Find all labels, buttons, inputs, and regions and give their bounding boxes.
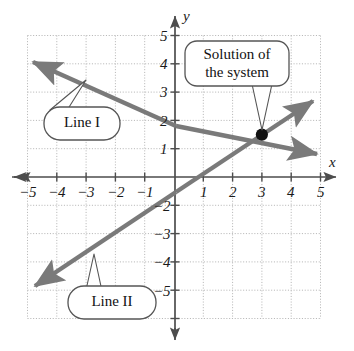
x-tick-label: 3 bbox=[258, 185, 266, 200]
x-tick-label: 5 bbox=[317, 185, 325, 200]
x-tick-label: 4 bbox=[287, 185, 295, 200]
x-tick-label: −5 bbox=[19, 185, 37, 200]
x-tick-label: 1 bbox=[200, 185, 208, 200]
x-tick-label: −1 bbox=[136, 185, 154, 200]
y-tick-label: −3 bbox=[153, 227, 171, 242]
y-tick-label: 1 bbox=[160, 142, 168, 157]
coordinate-plane bbox=[0, 0, 354, 351]
solution-callout-label: Solution of the system bbox=[187, 46, 287, 81]
x-axis-label: x bbox=[329, 155, 336, 170]
line-two-callout-label: Line II bbox=[68, 293, 156, 311]
y-axis-label: y bbox=[183, 9, 190, 24]
y-tick-label: 4 bbox=[160, 57, 168, 72]
y-tick-label: −4 bbox=[153, 255, 171, 270]
x-tick-label: 2 bbox=[229, 185, 237, 200]
y-tick-label: −2 bbox=[153, 199, 171, 214]
x-tick-label: −2 bbox=[107, 185, 125, 200]
x-tick-label: −3 bbox=[77, 185, 95, 200]
line-one-callout-label: Line I bbox=[44, 114, 120, 132]
x-tick-label: −4 bbox=[48, 185, 66, 200]
axis-lines bbox=[12, 16, 342, 340]
y-tick-label: 5 bbox=[160, 29, 168, 44]
y-tick-label: 2 bbox=[160, 114, 168, 129]
y-tick-label: 3 bbox=[160, 85, 168, 100]
graph-figure: y x −5 −4 −3 −2 −1 1 2 3 4 5 5 4 3 2 1 −… bbox=[0, 0, 354, 351]
